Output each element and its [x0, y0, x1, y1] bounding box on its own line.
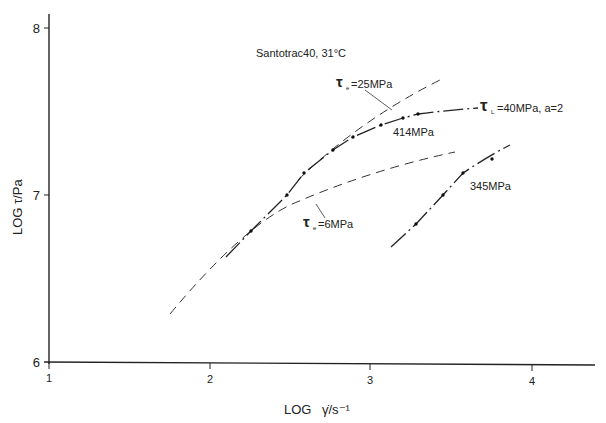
tau-e-6-subscript: e	[313, 225, 317, 231]
x-tick-label-1: 1	[46, 372, 52, 384]
label-414MPa: 414MPa	[393, 126, 435, 138]
y-tick-label-8: 8	[33, 21, 40, 36]
x-tick-label-3: 3	[367, 374, 373, 386]
x-axis-label-unit: γ̇/s⁻¹	[322, 402, 351, 417]
x-axis-label-prefix: LOG	[284, 402, 311, 417]
tau-e-25-label: =25MPa	[351, 78, 393, 90]
series-tau-e-6MPa	[170, 152, 455, 314]
tau-l-symbol: τ	[480, 96, 488, 115]
tau-l-label: =40MPa, a=2	[497, 102, 563, 114]
x-axis	[44, 362, 595, 365]
chart-title: Santotrac40, 31°C	[256, 47, 346, 59]
y-tick-label-7: 7	[33, 188, 40, 203]
y-axis-label: LOG τ/Pa	[10, 179, 25, 235]
tau-e-25-symbol: τ	[336, 73, 343, 90]
tau-e-6-symbol: τ	[303, 213, 310, 230]
y-tick-label-6: 6	[33, 355, 40, 370]
x-tick-label-4: 4	[529, 375, 535, 387]
leader-25MPa	[365, 90, 392, 110]
tau-e-25-subscript: e	[346, 85, 350, 91]
tau-e-6-label: =6MPa	[318, 218, 354, 230]
leader-6MPa	[316, 204, 325, 218]
x-tick-label-2: 2	[207, 373, 213, 385]
tau-l-subscript: L	[491, 109, 495, 115]
chart-canvas: 8 7 6 1 2 3 4 LOG γ̇/s⁻¹ LOG τ/Pa Santot…	[0, 0, 606, 423]
label-345MPa: 345MPa	[470, 180, 512, 192]
series-414MPa	[226, 108, 478, 257]
